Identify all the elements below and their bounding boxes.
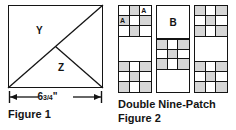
patch-cell: [216, 62, 227, 72]
patch-cell: [140, 62, 151, 72]
patch-cell: [216, 26, 227, 36]
fig1-arrowhead-right: [94, 94, 101, 100]
ninepatch-grid: [119, 62, 151, 92]
fig1-diagonal-lines: [8, 5, 103, 88]
patch-cell: [168, 50, 179, 60]
plain-block: [157, 70, 189, 92]
patch-cell: [178, 40, 189, 50]
figure-2-panel: A A: [114, 0, 236, 130]
plain-block-b: B: [157, 6, 189, 39]
patch-cell: [195, 26, 206, 36]
plain-block: [195, 37, 227, 61]
patch-cell: [130, 82, 141, 92]
patch-cell: [130, 6, 141, 16]
patch-cell: [119, 26, 130, 36]
figure-1-panel: Y Z 63/4" Figure 1: [0, 0, 114, 130]
patch-cell: A: [140, 6, 151, 16]
patch-cell: [195, 16, 206, 26]
figure-2-caption: Figure 2: [118, 112, 161, 124]
figure-2-title: Double Nine-Patch: [118, 98, 216, 110]
patch-cell: [168, 59, 179, 69]
patch-cell: [157, 59, 168, 69]
patch-cell: [178, 59, 189, 69]
patch-cell: [130, 72, 141, 82]
figure-1-caption: Figure 1: [8, 108, 51, 120]
patch-cell: [119, 62, 130, 72]
patch-cell: [130, 26, 141, 36]
patch-cell: [206, 16, 217, 26]
quilt-strip-right: [194, 5, 228, 93]
patch-cell: [178, 50, 189, 60]
fig1-dimension-label: 63/4": [0, 90, 95, 104]
plain-block: [119, 37, 151, 61]
ninepatch-block: [157, 39, 189, 70]
patch-cell: [216, 72, 227, 82]
fig1-dimension-unit: ": [53, 91, 58, 102]
patch-cell: [206, 62, 217, 72]
ninepatch-grid: [195, 6, 227, 36]
patch-cell: [140, 72, 151, 82]
ninepatch-grid: [195, 62, 227, 92]
patch-cell: [157, 50, 168, 60]
patch-cell: [130, 16, 141, 26]
patch-cell: [119, 6, 130, 16]
patch-label-a: A: [120, 16, 125, 26]
quilt-strip-middle: B: [156, 5, 190, 93]
quilt-strip-left: A A: [118, 5, 152, 93]
ninepatch-block: A A: [119, 6, 151, 37]
diagram-canvas: Y Z 63/4" Figure 1 A: [0, 0, 236, 130]
patch-label-a: A: [141, 6, 146, 16]
ninepatch-grid: A A: [119, 6, 151, 36]
fig1-region-label-z: Z: [58, 62, 64, 73]
patch-cell: [140, 26, 151, 36]
ninepatch-grid: [157, 40, 189, 69]
patch-cell: [216, 6, 227, 16]
patch-cell: [195, 6, 206, 16]
patch-cell: [130, 62, 141, 72]
patch-cell: [195, 82, 206, 92]
ninepatch-block: [195, 6, 227, 37]
fig1-region-label-y: Y: [36, 25, 43, 36]
patch-cell: [206, 26, 217, 36]
patch-cell: [195, 62, 206, 72]
patch-cell: [206, 6, 217, 16]
patch-cell: [157, 40, 168, 50]
ninepatch-block: [119, 61, 151, 92]
patch-cell: A: [119, 16, 130, 26]
patch-cell: [140, 82, 151, 92]
ninepatch-block: [195, 61, 227, 92]
patch-cell: [119, 82, 130, 92]
patch-cell: [216, 16, 227, 26]
patch-cell: [206, 82, 217, 92]
patch-cell: [216, 82, 227, 92]
patch-cell: [195, 72, 206, 82]
patch-cell: [206, 72, 217, 82]
patch-cell: [140, 16, 151, 26]
patch-cell: [168, 40, 179, 50]
fig1-dimension-fraction: 3/4: [43, 94, 53, 101]
block-label-b: B: [157, 17, 189, 28]
patch-cell: [119, 72, 130, 82]
